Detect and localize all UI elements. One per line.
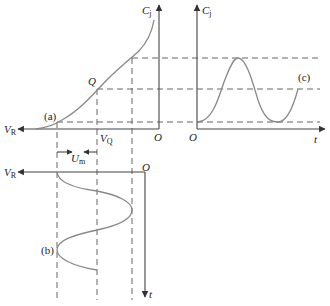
origin-left-label: O [154, 131, 162, 143]
vq-label: VQ [100, 132, 113, 146]
vr-label-top: VR [4, 123, 17, 137]
curve-a-label: (a) [44, 110, 57, 123]
vt-axes [18, 172, 145, 297]
cj-label-left: Cj [142, 4, 152, 18]
curve-c-label: (c) [298, 71, 311, 84]
curve-c-ct [198, 58, 298, 122]
horizontal-guides [57, 58, 320, 122]
q-point-label: Q [88, 75, 96, 87]
curve-b-vt [57, 172, 132, 270]
t-label-right: t [314, 133, 318, 145]
cv-axes [18, 5, 159, 129]
ct-axes [197, 5, 325, 129]
vr-label-bottom: VR [4, 166, 17, 180]
cj-label-right: Cj [202, 4, 212, 18]
um-label: Um [71, 152, 86, 166]
vertical-guides [57, 58, 132, 300]
t-label-bottom: t [149, 288, 153, 300]
curve-b-label: (b) [41, 244, 54, 257]
origin-right-label: O [189, 131, 197, 143]
cv-diagram: Cj Cj VR VR VQ Um Q O O O t t (a) (b) (c… [0, 0, 330, 306]
origin-bottom-label: O [142, 161, 150, 173]
